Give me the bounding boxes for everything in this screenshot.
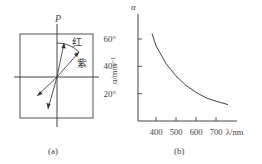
x-tick-label: 700 <box>210 127 223 137</box>
x-tick-label: 500 <box>170 127 183 137</box>
caption-b: (b) <box>174 146 185 156</box>
caption-a: (a) <box>48 146 58 156</box>
data-curve <box>152 34 228 105</box>
figure-b-chart: α α/mm⁻¹ 400500600700 20°40°60° λ/nm (b) <box>103 2 243 156</box>
violet-light-vector <box>57 52 79 77</box>
label-red: 红 <box>72 36 82 48</box>
axis-label-p: P <box>54 13 61 24</box>
y-tick-label: 40° <box>103 61 116 71</box>
label-violet: 紫 <box>77 58 87 69</box>
y-tick-label: 20° <box>103 89 116 99</box>
y-tick-label: 60° <box>103 34 116 44</box>
x-axis-label: λ/nm <box>226 127 244 137</box>
y-axis-top-label: α <box>131 2 136 12</box>
x-tick-label: 600 <box>190 127 203 137</box>
figure-a: P 红 紫 (a) <box>14 13 99 156</box>
figure-canvas: P 红 紫 (a) α α/mm⁻¹ 400500600700 20°40°60… <box>0 0 262 164</box>
x-tick-label: 400 <box>150 127 163 137</box>
